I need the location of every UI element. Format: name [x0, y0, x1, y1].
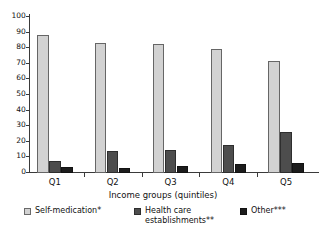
- bar-q3-series-1: [165, 150, 177, 173]
- y-axis-tick: [26, 47, 30, 48]
- legend-label-0: Self-medication*: [35, 206, 101, 216]
- x-axis-tick-label-q4: Q4: [222, 178, 234, 187]
- y-axis-tick-label: 50: [0, 90, 26, 98]
- legend-label-1: Health care establishments**: [145, 206, 214, 225]
- y-axis-tick: [26, 141, 30, 142]
- y-axis-tick-label: 20: [0, 137, 26, 145]
- y-axis-tick-label: 70: [0, 59, 26, 67]
- y-axis-tick: [26, 78, 30, 79]
- x-axis-tick-label-q1: Q1: [49, 178, 61, 187]
- legend-swatch-icon-0: [24, 208, 31, 215]
- bar-q4-series-2: [235, 164, 247, 173]
- legend-label-2: Other***: [251, 206, 286, 216]
- legend-swatch-icon-2: [240, 208, 247, 215]
- y-axis-tick: [26, 125, 30, 126]
- bar-q3-series-0: [153, 44, 165, 173]
- plot-area: 0102030405060708090100 Q1Q2Q3Q4Q5: [0, 0, 326, 180]
- y-axis-tick-label: 90: [0, 28, 26, 36]
- bar-q3-series-2: [177, 166, 189, 173]
- chart-legend: Self-medication*Health care establishmen…: [0, 206, 326, 235]
- y-axis-tick: [26, 156, 30, 157]
- x-axis-tick: [84, 173, 85, 177]
- y-axis-tick: [26, 32, 30, 33]
- bar-q2-series-1: [107, 151, 119, 173]
- y-axis-tick-labels: 0102030405060708090100: [0, 0, 26, 180]
- bar-q2-series-0: [95, 43, 107, 173]
- x-axis-tick: [257, 173, 258, 177]
- bar-q2-series-2: [119, 168, 131, 173]
- bar-q1-series-2: [61, 167, 73, 173]
- bar-chart: 0102030405060708090100 Q1Q2Q3Q4Q5 Income…: [0, 0, 326, 235]
- bar-q1-series-1: [49, 161, 61, 173]
- y-axis-tick-label: 40: [0, 106, 26, 114]
- x-axis-tick: [142, 173, 143, 177]
- x-axis-tick-label-q5: Q5: [280, 178, 292, 187]
- y-axis-tick-label: 100: [0, 12, 26, 19]
- y-axis-tick: [26, 172, 30, 173]
- y-axis-tick: [26, 16, 30, 17]
- y-axis-tick-label: 80: [0, 43, 26, 51]
- x-axis-tick-label-q2: Q2: [107, 178, 119, 187]
- y-axis-tick: [26, 63, 30, 64]
- legend-item-2[interactable]: Other***: [240, 206, 286, 216]
- y-axis-tick-label: 30: [0, 121, 26, 129]
- x-axis-tick-label-q3: Q3: [164, 178, 176, 187]
- y-axis-tick: [26, 110, 30, 111]
- bar-q5-series-1: [280, 132, 292, 173]
- y-axis-tick-label: 60: [0, 75, 26, 83]
- x-axis-tick: [199, 173, 200, 177]
- bars-layer: [30, 0, 319, 173]
- bar-q4-series-1: [223, 145, 235, 173]
- y-axis-tick: [26, 94, 30, 95]
- legend-swatch-icon-1: [134, 208, 141, 215]
- y-axis-tick-label: 0: [0, 168, 26, 176]
- bar-q4-series-0: [211, 49, 223, 173]
- bar-q1-series-0: [37, 35, 49, 173]
- legend-item-0[interactable]: Self-medication*: [24, 206, 101, 216]
- y-axis-tick-label: 10: [0, 153, 26, 161]
- legend-item-1[interactable]: Health care establishments**: [134, 206, 214, 225]
- bar-q5-series-0: [268, 61, 280, 173]
- bar-q5-series-2: [292, 163, 304, 173]
- x-axis-title: Income groups (quintiles): [0, 190, 326, 200]
